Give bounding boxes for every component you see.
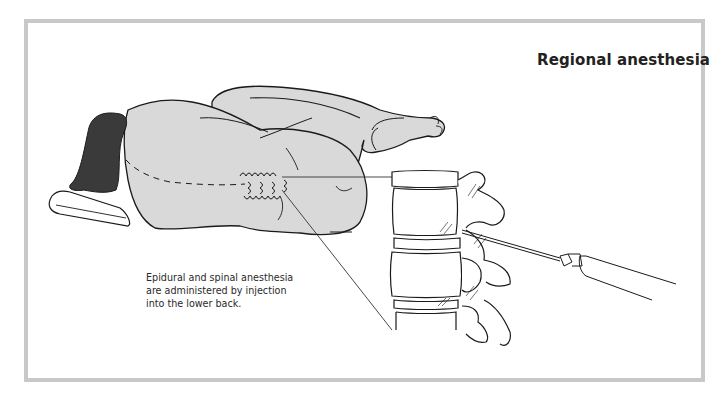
- patient-hair: [70, 113, 127, 192]
- pillow-icon: [49, 191, 129, 226]
- figure-title: Regional anesthesia: [537, 51, 710, 69]
- lumbar-spine: [391, 171, 511, 346]
- figure-caption: Epidural and spinal anesthesia are admin…: [146, 271, 306, 310]
